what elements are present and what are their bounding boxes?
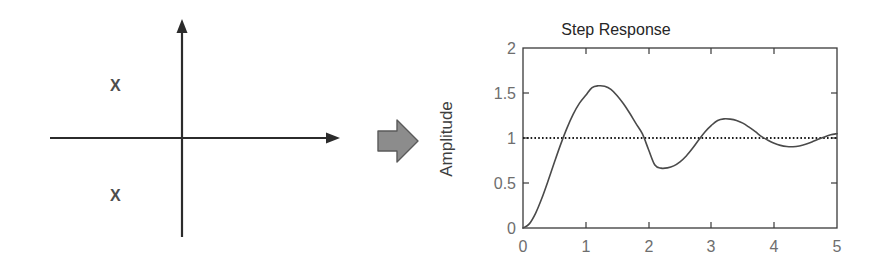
y-tick-label-0.5: 0.5 <box>494 175 516 192</box>
x-axis-tick-labels: 0 1 2 3 4 5 <box>519 238 842 255</box>
x-tick-label-3: 3 <box>707 238 716 255</box>
x-tick-label-1: 1 <box>582 238 591 255</box>
figure-canvas: X X Step Response Amplitude <box>0 0 884 273</box>
x-tick-label-0: 0 <box>519 238 528 255</box>
y-tick-label-0: 0 <box>507 220 516 237</box>
x-tick-label-5: 5 <box>833 238 842 255</box>
real-axis-arrowhead-icon <box>326 133 340 144</box>
pole-marker-lower: X <box>110 188 121 204</box>
pole-zero-diagram: X X <box>0 0 360 273</box>
pole-diagram-svg <box>0 0 360 273</box>
response-curve <box>523 86 837 228</box>
y-axis-title: Amplitude <box>437 101 456 177</box>
x-tick-label-2: 2 <box>645 238 654 255</box>
imaginary-axis-arrowhead-icon <box>177 19 188 33</box>
y-tick-label-1.5: 1.5 <box>494 85 516 102</box>
arrow-right-block-shape <box>378 120 418 162</box>
chart-title: Step Response <box>561 21 671 38</box>
step-response-chart: Step Response Amplitude <box>430 0 884 273</box>
arrow-right-block-icon <box>374 116 422 166</box>
x-tick-label-4: 4 <box>770 238 779 255</box>
y-tick-label-2: 2 <box>507 40 516 57</box>
step-response-svg: Step Response Amplitude <box>430 0 884 273</box>
imaginary-axis <box>177 19 188 237</box>
y-tick-label-1: 1 <box>507 130 516 147</box>
real-axis <box>50 133 340 144</box>
pole-marker-upper: X <box>110 78 121 94</box>
y-axis-tick-labels: 2 1.5 1 0.5 0 <box>494 40 516 237</box>
transform-arrow <box>374 116 422 166</box>
